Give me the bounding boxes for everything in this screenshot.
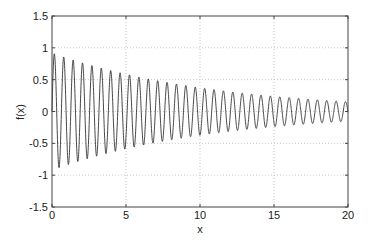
x-axis-label: x xyxy=(197,223,203,235)
x-tick-label: 10 xyxy=(194,209,206,221)
y-tick-label: -1 xyxy=(38,169,48,181)
x-tick-labels: 05101520 xyxy=(49,209,354,221)
y-tick-label: 0 xyxy=(42,106,48,118)
y-tick-label: -0.5 xyxy=(29,137,48,149)
y-tick-label: 0.5 xyxy=(33,74,48,86)
x-tick-label: 15 xyxy=(268,209,280,221)
chart: 05101520 -1.5-1-0.500.511.5 x f(x) xyxy=(0,0,368,242)
x-tick-label: 0 xyxy=(49,209,55,221)
y-tick-labels: -1.5-1-0.500.511.5 xyxy=(29,10,48,213)
y-tick-label: 1 xyxy=(42,42,48,54)
x-tick-label: 5 xyxy=(123,209,129,221)
y-axis-label: f(x) xyxy=(14,104,26,120)
y-tick-label: -1.5 xyxy=(29,201,48,213)
y-tick-label: 1.5 xyxy=(33,10,48,22)
x-tick-label: 20 xyxy=(342,209,354,221)
